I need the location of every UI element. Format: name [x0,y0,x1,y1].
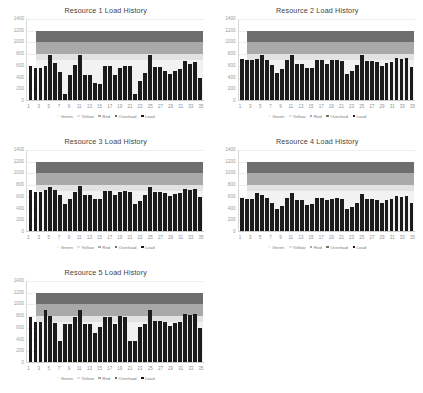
bar [29,317,33,363]
chart-title: Resource 1 Load History [0,0,212,16]
legend-item-load[interactable]: Load [141,114,155,119]
plot-canvas [26,150,204,232]
bar [390,199,394,232]
bar [68,324,72,363]
x-axis-tick-label: 1 [27,364,30,373]
bar [370,61,374,101]
legend-item-red[interactable]: Red [310,245,322,250]
y-axis-tick-label: 400 [228,206,236,211]
x-axis-tick-label: 19 [329,233,334,242]
legend-swatch-icon [98,246,101,249]
bar [250,60,254,101]
bar [265,60,269,101]
y-axis-tick-label: 1000 [225,40,235,45]
legend-item-green[interactable]: Green [268,245,284,250]
bar [290,55,294,101]
legend-item-overload[interactable]: Overload [115,114,137,119]
bar [148,310,152,363]
legend-item-yellow[interactable]: Yellow [289,114,305,119]
bar [128,192,132,232]
x-axis-tick-label: 27 [158,364,163,373]
x-axis-tick-label: 25 [359,102,364,111]
bar [108,66,112,101]
y-axis-tick-label: 1000 [225,171,235,176]
bar [48,187,52,232]
y-axis: 1400120010008006004002000 [10,281,25,363]
x-axis-tick-label: 13 [298,233,303,242]
plot-canvas [26,281,204,363]
legend-item-overload[interactable]: Overload [115,245,137,250]
x-axis-tick-label: 21 [339,233,344,242]
y-axis-tick-label: 400 [228,75,236,80]
legend-item-overload[interactable]: Overload [326,245,348,250]
legend-item-green[interactable]: Green [57,114,73,119]
legend-item-yellow[interactable]: Yellow [289,245,305,250]
y-axis-tick-label: 0 [21,99,24,104]
x-axis-tick-label: 7 [58,364,61,373]
legend-label: Red [102,376,110,381]
bar [375,200,379,232]
x-axis-tick-label: 9 [68,102,71,111]
legend-item-load[interactable]: Load [141,376,155,381]
bar [183,314,187,363]
x-axis: 1357911131517192123252729313335 [238,233,416,242]
bar [123,66,127,101]
x-axis-tick-label: 33 [188,233,193,242]
legend-item-red[interactable]: Red [98,376,110,381]
legend-item-green[interactable]: Green [57,245,73,250]
legend-item-red[interactable]: Red [310,114,322,119]
legend-item-load[interactable]: Load [141,245,155,250]
legend-item-overload[interactable]: Overload [326,114,348,119]
bar [93,83,97,101]
legend-item-load[interactable]: Load [353,245,367,250]
legend-item-green[interactable]: Green [57,376,73,381]
x-axis-tick-label: 33 [400,233,405,242]
bar [280,206,284,232]
bar [148,187,152,232]
bar [395,196,399,232]
legend-item-green[interactable]: Green [268,114,284,119]
legend-label: Red [102,114,110,119]
bar [128,66,132,101]
y-axis-tick-label: 600 [16,195,24,200]
legend-swatch-icon [268,246,271,249]
bar [113,75,117,101]
bar [83,324,87,363]
x-axis-tick-label: 3 [37,102,40,111]
y-axis-tick-label: 800 [16,52,24,57]
bar [380,66,384,101]
y-axis-tick-label: 1400 [225,148,235,153]
y-axis-tick-label: 400 [16,75,24,80]
bar [260,195,264,232]
legend-item-yellow[interactable]: Yellow [77,376,93,381]
bar [400,59,404,101]
bar [173,71,177,101]
legend-label: Red [314,114,322,119]
legend-item-overload[interactable]: Overload [115,376,137,381]
legend-item-red[interactable]: Red [98,114,110,119]
x-axis-tick-label: 25 [148,233,153,242]
x-axis-tick-label: 35 [198,102,203,111]
chart-legend: GreenYellowRedOverloadLoad [212,242,423,252]
x-axis-tick-label: 1 [27,233,30,242]
bar [143,73,147,101]
legend-item-load[interactable]: Load [353,114,367,119]
x-axis-tick-label: 5 [48,364,51,373]
x-axis-tick-label: 29 [380,102,385,111]
bar [73,192,77,232]
bar [290,193,294,232]
bar [98,327,102,363]
legend-item-red[interactable]: Red [98,245,110,250]
legend-swatch-icon [115,246,118,249]
bar [108,191,112,232]
bar [83,195,87,232]
legend-item-yellow[interactable]: Yellow [77,245,93,250]
x-axis-tick-label: 31 [178,364,183,373]
bar [275,209,279,232]
bar [405,196,409,232]
x-axis-tick-label: 13 [87,102,92,111]
legend-label: Green [61,245,73,250]
legend-item-yellow[interactable]: Yellow [77,114,93,119]
legend-label: Red [102,245,110,250]
bar [103,66,107,101]
